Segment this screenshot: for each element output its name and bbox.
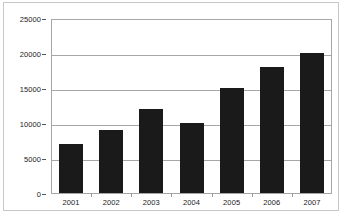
- x-tick-mark: [171, 194, 172, 197]
- x-tick-label: 2006: [263, 198, 280, 207]
- x-tick-mark: [91, 194, 92, 197]
- y-axis: 0500010000150002000025000: [4, 19, 46, 194]
- x-tick-mark: [292, 194, 293, 197]
- chart-frame: 0500010000150002000025000 20012002200320…: [3, 2, 339, 211]
- y-tick-label: 10000: [20, 120, 41, 129]
- x-tick-label: 2004: [183, 198, 200, 207]
- y-tick-mark: [42, 19, 46, 20]
- y-tick-mark: [42, 124, 46, 125]
- y-tick-label: 15000: [20, 85, 41, 94]
- y-tick-label: 5000: [24, 155, 41, 164]
- y-tick-label: 0: [37, 190, 41, 199]
- y-tick-label: 20000: [20, 50, 41, 59]
- gridline: [52, 90, 331, 91]
- y-tick-mark: [42, 89, 46, 90]
- x-tick-label: 2007: [303, 198, 320, 207]
- x-tick-label: 2002: [103, 198, 120, 207]
- plot-area: [51, 19, 332, 194]
- gridline: [52, 55, 331, 56]
- chart-title: [4, 0, 340, 5]
- y-tick-mark: [42, 194, 46, 195]
- y-tick-mark: [42, 54, 46, 55]
- x-tick-mark: [212, 194, 213, 197]
- x-axis: 2001200220032004200520062007: [51, 196, 332, 212]
- y-tick-mark: [42, 159, 46, 160]
- x-tick-label: 2005: [223, 198, 240, 207]
- x-tick-mark: [131, 194, 132, 197]
- gridline: [52, 125, 331, 126]
- x-tick-label: 2001: [63, 198, 80, 207]
- y-tick-label: 25000: [20, 15, 41, 24]
- gridline: [52, 160, 331, 161]
- x-tick-mark: [252, 194, 253, 197]
- x-tick-label: 2003: [143, 198, 160, 207]
